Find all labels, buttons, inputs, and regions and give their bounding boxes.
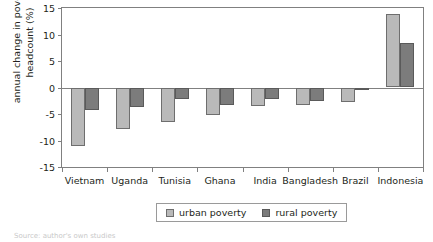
bar-ghana-rural: [220, 88, 234, 105]
x-axis-label-indonesia: Indonesia: [377, 175, 423, 186]
y-axis-tick: [58, 8, 62, 9]
x-axis-tick: [333, 167, 334, 172]
y-axis-tick: [58, 61, 62, 62]
x-axis-tick: [107, 167, 108, 172]
x-axis-tick: [152, 167, 153, 172]
x-axis-label-ghana: Ghana: [204, 175, 235, 186]
legend-label-urban: urban poverty: [179, 207, 246, 218]
chart-legend: urban poverty rural poverty: [156, 203, 347, 222]
y-axis-tick-label: -15: [39, 162, 55, 173]
x-axis-label-india: India: [253, 175, 276, 186]
x-axis-label-bangladesh: Bangladesh: [282, 175, 338, 186]
y-axis-title: annual change in poverty headcount (%): [11, 0, 36, 118]
x-axis-label-brazil: Brazil: [342, 175, 369, 186]
x-axis-tick: [378, 167, 379, 172]
x-axis-label-uganda: Uganda: [111, 175, 148, 186]
legend-label-rural: rural poverty: [275, 207, 337, 218]
x-axis-label-tunisia: Tunisia: [159, 175, 191, 186]
y-axis-tick-label: -5: [46, 109, 55, 120]
y-axis-tick: [58, 141, 62, 142]
y-axis-tick: [58, 35, 62, 36]
bar-indonesia-urban: [386, 14, 400, 88]
plot-area: 151050-5-10-15VietnamUgandaTunisiaGhanaI…: [61, 7, 424, 168]
x-axis-tick: [197, 167, 198, 172]
bar-brazil-rural: [355, 88, 369, 91]
bar-bangladesh-rural: [310, 88, 324, 101]
x-axis-tick: [243, 167, 244, 172]
bar-brazil-urban: [341, 88, 355, 103]
source-note: Source: author's own studies: [14, 232, 115, 240]
bar-vietnam-rural: [85, 88, 99, 110]
bar-india-urban: [251, 88, 265, 107]
x-axis-tick: [288, 167, 289, 172]
y-axis-tick-label: 15: [43, 3, 55, 14]
x-axis-tick: [62, 167, 63, 172]
poverty-change-bar-chart: annual change in poverty headcount (%) 1…: [0, 0, 433, 242]
bar-uganda-rural: [130, 88, 144, 107]
bar-tunisia-rural: [175, 88, 189, 99]
legend-swatch-urban-icon: [166, 209, 174, 217]
legend-item-urban: urban poverty: [166, 207, 246, 218]
legend-item-rural: rural poverty: [262, 207, 337, 218]
bar-bangladesh-urban: [296, 88, 310, 105]
y-axis-tick: [58, 88, 62, 89]
bar-indonesia-rural: [400, 43, 414, 88]
y-axis-tick-label: 10: [43, 29, 55, 40]
bar-vietnam-urban: [71, 88, 85, 147]
bar-tunisia-urban: [161, 88, 175, 122]
bar-india-rural: [265, 88, 279, 100]
y-axis-tick-label: 0: [49, 82, 55, 93]
x-axis-tick: [423, 167, 424, 172]
y-axis-tick-label: 5: [49, 56, 55, 67]
y-axis-tick-label: -10: [39, 135, 55, 146]
y-axis-tick: [58, 114, 62, 115]
bar-ghana-urban: [206, 88, 220, 115]
bar-uganda-urban: [116, 88, 130, 130]
x-axis-label-vietnam: Vietnam: [65, 175, 105, 186]
legend-swatch-rural-icon: [262, 209, 270, 217]
